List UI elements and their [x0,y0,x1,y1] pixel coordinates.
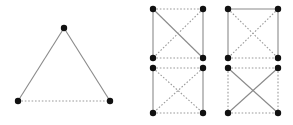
graph-node [107,98,113,104]
panel-square-bottom-left-edges [153,68,203,113]
panel-square-bottom-right-edges [228,68,278,113]
graph-node [150,6,156,12]
graph-figure [0,0,293,125]
graph-node [275,65,281,71]
graph-canvas [0,0,293,125]
graph-node [150,110,156,116]
panel-square-top-right-edges [228,9,278,58]
graph-node [200,55,206,61]
edge-dotted [153,68,203,113]
graph-node [150,55,156,61]
edge-solid [64,28,110,101]
graph-node [275,55,281,61]
graph-node [225,55,231,61]
edge-dotted [153,68,203,113]
edge-solid [18,28,64,101]
panel-triangle-edges [18,28,110,101]
graph-node [15,98,21,104]
panel-square-top-left-edges [153,9,203,58]
graph-node [275,110,281,116]
graph-node [150,65,156,71]
graph-node [200,110,206,116]
graph-node [225,6,231,12]
graph-node [225,65,231,71]
nodes-layer [15,6,281,116]
graph-node [275,6,281,12]
graph-node [200,65,206,71]
edges-layer [18,9,278,113]
graph-node [225,110,231,116]
panel-triangle-nodes [15,25,113,104]
graph-node [61,25,67,31]
graph-node [200,6,206,12]
